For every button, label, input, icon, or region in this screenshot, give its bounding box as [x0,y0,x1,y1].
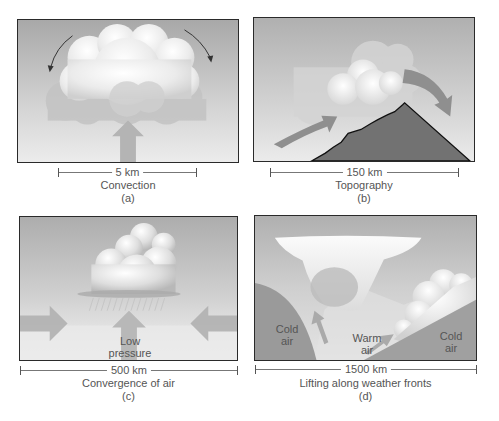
low-pressure-line1: Low [105,335,155,347]
letter-d: (d) [254,390,477,403]
warm-air-line1: Warm [347,332,387,344]
cold-air-right-label: Cold air [433,330,469,354]
low-pressure-line2: pressure [105,347,155,359]
warm-air-label: Warm air [347,332,387,356]
cold-air-right-line2: air [433,342,469,354]
cold-air-right-line1: Cold [433,330,469,342]
caption-c: Convergence of air [19,377,238,390]
letter-a: (a) [17,192,239,205]
low-pressure-label: Low pressure [105,335,155,359]
cold-air-left-line1: Cold [269,323,305,335]
panel-convection [17,19,239,163]
caption-d: Lifting along weather fronts [254,377,477,390]
panel-weather-fronts: Cold air Warm air Cold air [254,215,477,361]
cold-air-left-label: Cold air [269,323,305,347]
scale-label-b: 150 km [342,165,386,179]
caption-b: Topography [253,179,475,192]
topography-illustration [254,18,474,161]
panel-convergence: Low pressure [19,216,238,361]
scale-bar-b: 150 km [270,167,459,178]
scale-label-c: 500 km [107,363,151,377]
panel-topography [253,17,475,162]
caption-a: Convection [17,179,239,192]
scale-bar-d: 1500 km [255,364,477,375]
letter-b: (b) [253,192,475,205]
warm-air-line2: air [347,344,387,356]
convection-illustration [18,20,238,162]
letter-c: (c) [19,390,238,403]
scale-label-a: 5 km [112,165,144,179]
scale-bar-c: 500 km [20,365,238,376]
scale-bar-a: 5 km [58,167,197,178]
scale-label-d: 1500 km [341,362,391,376]
cold-air-left-line2: air [269,335,305,347]
